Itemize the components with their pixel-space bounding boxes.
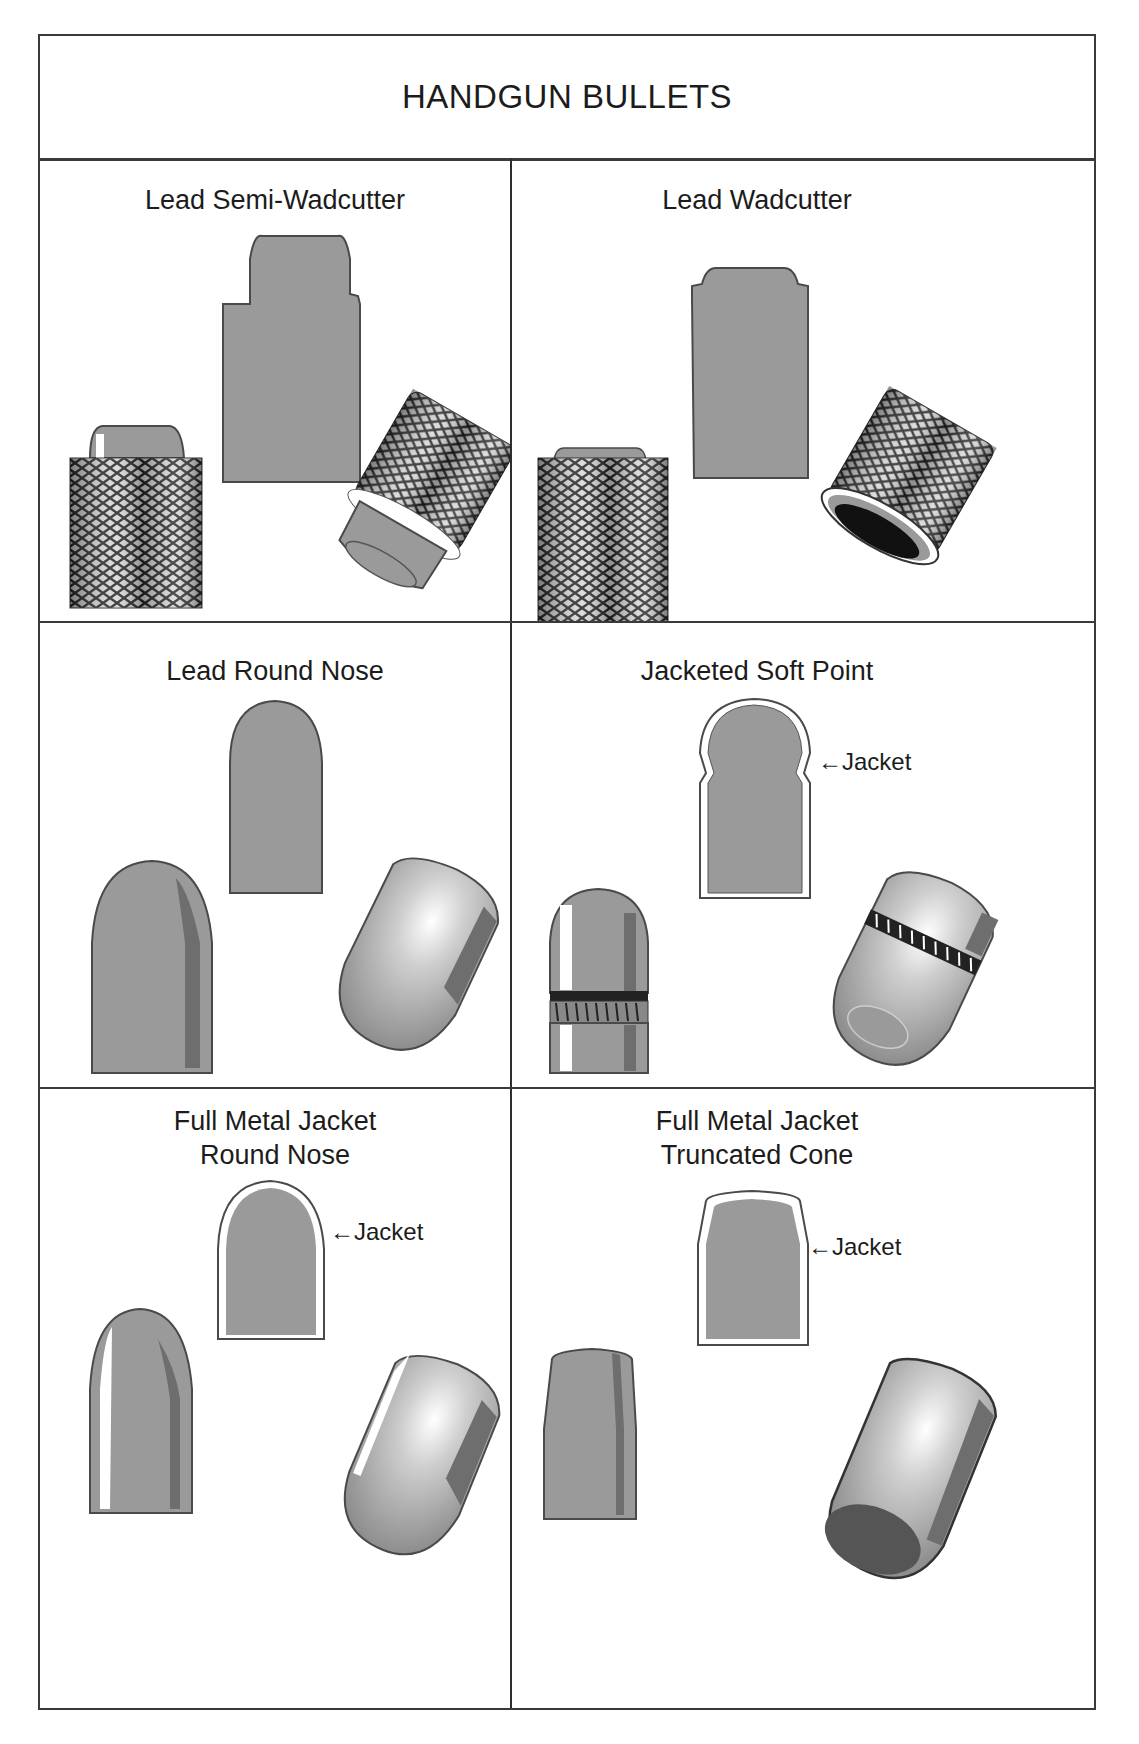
diagram-frame: HANDGUN BULLETS (38, 34, 1096, 1710)
bullet-illustrations (40, 1089, 510, 1710)
round-nose-angled-view (320, 843, 510, 1069)
round-nose-cross-section (230, 701, 322, 893)
bullet-illustrations (512, 158, 1096, 621)
bullet-illustrations (40, 623, 510, 1087)
fmj-tc-side-view (544, 1349, 636, 1519)
title-box: HANDGUN BULLETS (40, 36, 1094, 161)
fmj-rn-angled-view (327, 1342, 510, 1572)
arrow-left-icon: ← (818, 748, 842, 775)
semi-wadcutter-side-view (70, 426, 202, 608)
fmj-rn-cross-section (218, 1181, 324, 1339)
jacket-callout: ←Jacket (818, 748, 911, 776)
diagram-title: HANDGUN BULLETS (402, 78, 732, 116)
jacket-callout: ←Jacket (330, 1218, 423, 1246)
wadcutter-angled-view (812, 384, 1000, 578)
callout-label: Jacket (832, 1233, 901, 1260)
panel-lead-semi-wadcutter: Lead Semi-Wadcutter (40, 158, 510, 621)
round-nose-side-view (92, 861, 212, 1073)
fmj-tc-cross-section (698, 1191, 808, 1345)
arrow-left-icon: ← (808, 1233, 832, 1260)
bullet-illustrations (512, 623, 1096, 1087)
jacket-callout: ←Jacket (808, 1233, 901, 1261)
panel-fmj-truncated-cone: Full Metal Jacket Truncated Cone ← (512, 1089, 1096, 1710)
jsp-cross-section (700, 699, 810, 898)
callout-label: Jacket (354, 1218, 423, 1245)
bullet-grid: Lead Semi-Wadcutter (40, 158, 1094, 1708)
jsp-angled-view (814, 857, 1007, 1084)
fmj-rn-side-view (90, 1309, 192, 1513)
panel-lead-round-nose: Lead Round Nose (40, 623, 510, 1087)
panel-fmj-round-nose: Full Metal Jacket Round Nose (40, 1089, 510, 1710)
panel-lead-wadcutter: Lead Wadcutter (512, 158, 1096, 621)
wadcutter-cross-section (692, 268, 808, 478)
panel-jacketed-soft-point: Jacketed Soft Point (512, 623, 1096, 1087)
semi-wadcutter-cross-section (223, 236, 360, 482)
fmj-tc-angled-view (813, 1346, 1007, 1595)
jsp-side-view (550, 889, 648, 1073)
bullet-illustrations (512, 1089, 1096, 1710)
bullet-illustrations (40, 158, 510, 621)
arrow-left-icon: ← (330, 1218, 354, 1245)
wadcutter-side-view (538, 448, 668, 621)
callout-label: Jacket (842, 748, 911, 775)
